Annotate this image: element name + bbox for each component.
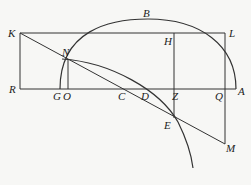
label-Z: Z: [172, 91, 178, 102]
curve-NE: [62, 59, 193, 168]
label-R: R: [9, 84, 16, 95]
label-A: A: [238, 86, 245, 97]
semicircle-GBA: [60, 19, 236, 89]
label-O: O: [63, 91, 71, 102]
label-H: H: [164, 36, 172, 47]
label-K: K: [8, 28, 15, 39]
label-G: G: [53, 91, 61, 102]
label-N: N: [62, 47, 69, 58]
label-B: B: [143, 8, 150, 19]
label-E: E: [164, 120, 171, 131]
geometry-diagram: K N B H L R G O C D Z Q A E M: [0, 0, 251, 185]
label-Q: Q: [215, 91, 223, 102]
label-C: C: [118, 91, 125, 102]
diagram-lines: [0, 0, 251, 185]
label-L: L: [229, 28, 235, 39]
label-D: D: [141, 91, 149, 102]
label-M: M: [226, 143, 235, 154]
